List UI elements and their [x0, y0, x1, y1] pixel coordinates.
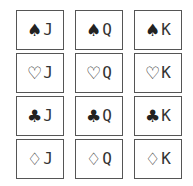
card-rank: Q	[102, 22, 112, 38]
heart-icon: ♡	[27, 65, 42, 82]
heart-icon: ♡	[145, 65, 160, 82]
spade-icon: ♠	[145, 22, 160, 39]
card-rank: Q	[102, 151, 112, 167]
card-rank: J	[43, 22, 53, 38]
spade-icon: ♠	[27, 22, 42, 39]
card-diamond-j[interactable]: ♢J	[16, 139, 64, 179]
club-icon: ♣	[145, 108, 160, 125]
spade-icon: ♠	[86, 22, 101, 39]
card-heart-q[interactable]: ♡Q	[75, 53, 123, 93]
heart-icon: ♡	[86, 65, 101, 82]
card-rank: Q	[102, 108, 112, 124]
diamond-icon: ♢	[27, 151, 42, 168]
card-rank: K	[161, 65, 171, 81]
card-club-k[interactable]: ♣K	[134, 96, 182, 136]
card-spade-j[interactable]: ♠J	[16, 10, 64, 50]
club-icon: ♣	[27, 108, 42, 125]
card-rank: K	[161, 22, 171, 38]
card-heart-k[interactable]: ♡K	[134, 53, 182, 93]
card-rank: Q	[102, 65, 112, 81]
card-spade-k[interactable]: ♠K	[134, 10, 182, 50]
card-club-j[interactable]: ♣J	[16, 96, 64, 136]
card-rank: J	[43, 151, 53, 167]
card-rank: K	[161, 108, 171, 124]
card-grid: ♠J ♠Q ♠K ♡J ♡Q ♡K ♣J ♣Q ♣K ♢J ♢Q ♢K	[16, 10, 182, 179]
diamond-icon: ♢	[86, 151, 101, 168]
card-diamond-q[interactable]: ♢Q	[75, 139, 123, 179]
card-diamond-k[interactable]: ♢K	[134, 139, 182, 179]
club-icon: ♣	[86, 108, 101, 125]
card-rank: J	[43, 65, 53, 81]
card-heart-j[interactable]: ♡J	[16, 53, 64, 93]
diamond-icon: ♢	[145, 151, 160, 168]
card-club-q[interactable]: ♣Q	[75, 96, 123, 136]
card-spade-q[interactable]: ♠Q	[75, 10, 123, 50]
card-rank: K	[161, 151, 171, 167]
card-rank: J	[43, 108, 53, 124]
